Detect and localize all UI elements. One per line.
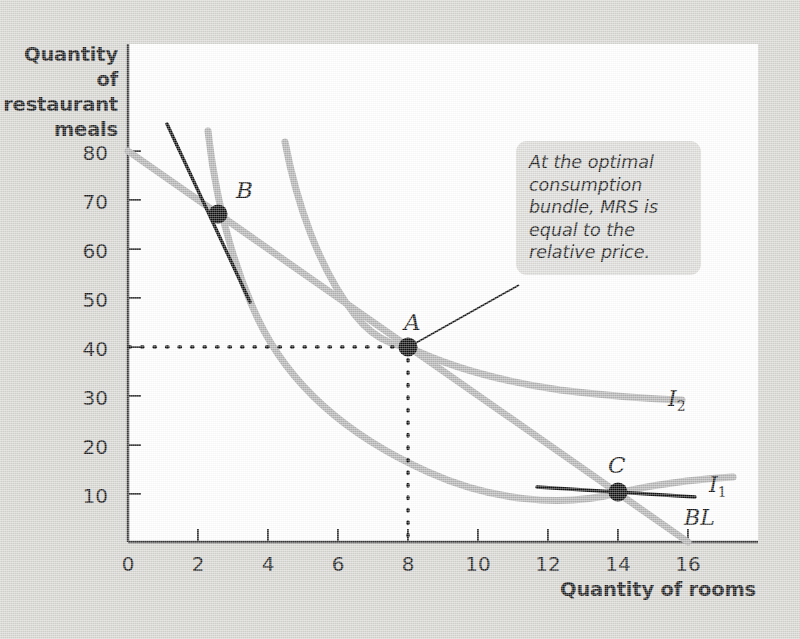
y-tick-label-70: 70 xyxy=(62,190,108,214)
callout-leader-line xyxy=(414,285,519,344)
x-axis-ticks xyxy=(198,529,688,542)
curve-label-i2-subscript: 2 xyxy=(677,398,686,414)
callout-line-4: equal to the xyxy=(529,219,689,242)
data-point-c[interactable] xyxy=(609,483,628,502)
callout-line-2: consumption xyxy=(529,174,689,197)
x-tick-label-14: 14 xyxy=(598,552,638,576)
y-tick-label-10: 10 xyxy=(62,484,108,508)
curve-label-budget-line: BL xyxy=(684,505,715,530)
data-point-a[interactable] xyxy=(399,338,418,357)
curve-label-i1-letter: I xyxy=(709,472,718,497)
y-tick-label-50: 50 xyxy=(62,288,108,312)
y-tick-label-20: 20 xyxy=(62,435,108,459)
curve-label-i1: I1 xyxy=(709,472,727,500)
callout-line-5: relative price. xyxy=(529,241,689,264)
data-point-b[interactable] xyxy=(209,205,228,224)
x-tick-label-4: 4 xyxy=(248,552,288,576)
y-axis-title-line-1: Quantity of xyxy=(0,42,118,92)
callout-line-3: bundle, MRS is xyxy=(529,196,689,219)
data-point-label-b: B xyxy=(236,177,253,203)
y-tick-label-80: 80 xyxy=(62,141,108,165)
x-tick-label-2: 2 xyxy=(178,552,218,576)
x-tick-label-10: 10 xyxy=(458,552,498,576)
optimal-bundle-callout: At the optimal consumption bundle, MRS i… xyxy=(516,141,701,275)
data-point-label-a: A xyxy=(404,309,421,335)
x-axis-title: Quantity of rooms xyxy=(560,578,756,601)
callout-line-1: At the optimal xyxy=(529,151,689,174)
curve-label-i1-subscript: 1 xyxy=(718,484,727,500)
curve-label-i2: I2 xyxy=(668,386,686,414)
y-axis-title-line-3: meals xyxy=(0,117,118,142)
x-tick-label-0: 0 xyxy=(108,552,148,576)
y-tick-label-30: 30 xyxy=(62,386,108,410)
x-tick-label-16: 16 xyxy=(668,552,708,576)
y-tick-label-40: 40 xyxy=(62,337,108,361)
x-tick-label-6: 6 xyxy=(318,552,358,576)
x-tick-label-8: 8 xyxy=(388,552,428,576)
y-tick-label-60: 60 xyxy=(62,239,108,263)
curve-label-i2-letter: I xyxy=(668,386,677,411)
y-axis-ticks xyxy=(128,151,141,494)
data-point-label-c: C xyxy=(608,452,626,478)
chart-svg xyxy=(0,0,800,639)
x-tick-label-12: 12 xyxy=(528,552,568,576)
figure-container: Quantity of restaurant meals Quantity of… xyxy=(0,0,800,639)
y-axis-title: Quantity of restaurant meals xyxy=(0,42,118,142)
y-axis-title-line-2: restaurant xyxy=(0,92,118,117)
